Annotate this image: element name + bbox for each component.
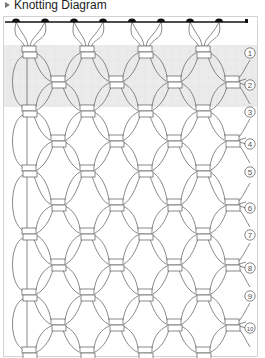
cord (123, 296, 138, 320)
svg-text:5: 5 (248, 168, 253, 177)
square-knot (225, 76, 240, 88)
lark-head-mount (70, 19, 78, 22)
square-knot (167, 199, 182, 211)
cord (13, 238, 24, 291)
cord (211, 210, 227, 233)
cord (181, 112, 196, 136)
square-knot (80, 228, 95, 240)
lark-head-mount (157, 19, 165, 22)
cord (65, 235, 80, 260)
cord (152, 206, 167, 229)
square-knot (109, 135, 124, 147)
cord (95, 210, 111, 233)
row-label-5: 5 (245, 167, 255, 177)
cord (94, 172, 109, 200)
cord (208, 300, 224, 324)
cord (208, 176, 224, 204)
cord (210, 326, 225, 348)
cord (121, 270, 137, 294)
cord (239, 183, 250, 201)
cord (65, 326, 80, 348)
square-knot (80, 289, 95, 301)
cord (94, 235, 109, 260)
cord (152, 235, 167, 260)
square-knot (51, 259, 66, 271)
row-label-3: 3 (245, 107, 255, 117)
cord (37, 330, 53, 352)
square-knot (22, 228, 37, 240)
cord (124, 176, 140, 204)
cord (13, 299, 24, 349)
cord (94, 296, 109, 320)
cord (150, 300, 166, 324)
square-knot (109, 259, 124, 271)
cord (37, 210, 53, 233)
square-knot (225, 135, 240, 147)
cord (124, 300, 140, 324)
svg-text:7: 7 (248, 231, 253, 240)
cord (121, 210, 137, 233)
square-knot (22, 347, 37, 358)
svg-text:6: 6 (248, 204, 253, 213)
cord (239, 303, 250, 321)
square-knot (167, 319, 182, 331)
square-knot (109, 76, 124, 88)
cord (36, 172, 51, 200)
cord (179, 330, 195, 352)
square-knot (167, 135, 182, 147)
square-knot (109, 319, 124, 331)
square-knot (51, 199, 66, 211)
cord (153, 146, 169, 170)
cord (182, 300, 198, 324)
cord (36, 235, 51, 260)
cord (124, 116, 140, 140)
cord (36, 326, 51, 348)
cord (94, 142, 109, 166)
cord (207, 22, 220, 47)
lark-head-mount (186, 19, 194, 22)
cord (63, 330, 79, 352)
square-knot (196, 289, 211, 301)
cord (94, 266, 109, 290)
cord (152, 112, 167, 136)
square-knot (22, 46, 37, 58)
cord (63, 210, 79, 233)
square-knot (138, 347, 153, 358)
cord (181, 172, 196, 200)
cord (239, 119, 250, 137)
lark-head-mount (99, 19, 107, 22)
square-knot (138, 165, 153, 177)
cord (95, 330, 111, 352)
svg-text:1: 1 (248, 49, 253, 58)
cord (74, 22, 86, 47)
row-label-8: 8 (245, 263, 255, 273)
square-knot (138, 105, 153, 117)
cord (123, 142, 138, 166)
cord (181, 206, 196, 229)
cord (63, 146, 79, 170)
cord (65, 296, 80, 320)
cord (210, 112, 225, 136)
cord (88, 22, 103, 47)
square-knot (167, 259, 182, 271)
cord (30, 22, 45, 47)
cord (204, 22, 219, 47)
cord (66, 239, 82, 264)
cord (150, 176, 166, 204)
cord (123, 112, 138, 136)
cord (146, 22, 161, 47)
cord (123, 235, 138, 260)
cord (182, 176, 198, 204)
cord (121, 146, 137, 170)
square-knot (225, 259, 240, 271)
cord (34, 239, 50, 264)
svg-text:8: 8 (248, 264, 253, 273)
cord (92, 116, 108, 140)
cord (123, 326, 138, 348)
cord (181, 326, 196, 348)
lark-head-mount (215, 19, 223, 22)
cord (211, 330, 227, 352)
cord (210, 172, 225, 200)
cord (239, 202, 246, 204)
cord (150, 239, 166, 264)
